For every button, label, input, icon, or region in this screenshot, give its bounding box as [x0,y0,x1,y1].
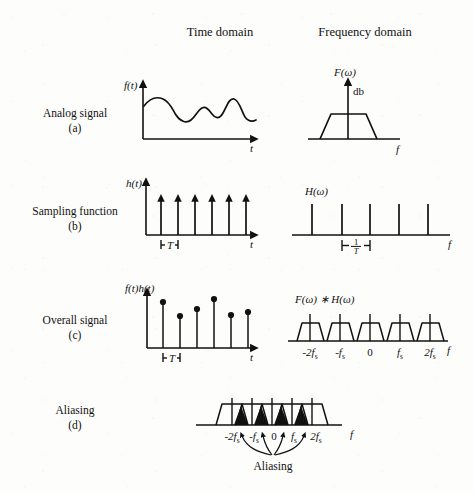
tick-label: fs [397,346,403,361]
panel-a-time: f(t) t [124,79,256,154]
axis-label-db: db [353,85,365,97]
sample-dot [177,313,183,319]
panel-b-time: h(t) t T [126,177,254,251]
panel-c-freq: F(ω) ∗ H(ω) f -2fs -fs 0 fs 2fs [288,293,452,361]
tick-label-zero: 0 [271,430,277,442]
row-tag-a: (a) [69,122,82,135]
tick-label: -fs [335,346,345,361]
axis-label-fthT: f(t)h(t) [125,282,155,295]
axis-label-Homega: H(ω) [304,185,328,198]
sample-dot [228,312,234,318]
tick-label: 2fs [424,346,436,361]
row-sampling-function: Sampling function (b) h(t) t T [32,177,453,256]
panel-c-time: f(t)h(t) t T [125,282,254,364]
tick-label: -2fs [224,430,239,445]
panel-a-freq: F(ω) db f [308,66,401,155]
sample-stems [160,296,251,348]
axis-label-f: f [447,344,452,356]
axis-label-f: f [448,238,453,250]
axis-label-t: t [250,351,254,363]
row-label-a: Analog signal [43,107,107,120]
tick-sub: s [315,352,318,361]
tick-label: 2fs [310,430,322,445]
row-label-c: Overall signal [43,314,108,327]
axis-label-t: t [250,142,254,154]
spacing-bracket-inverse-T: 1 T [342,237,370,256]
column-header-time: Time domain [187,25,254,39]
tick-label-zero: 0 [367,346,373,358]
period-bracket-T: T [161,238,178,251]
row-tag-c: (c) [69,329,82,342]
spectral-replicas [297,314,444,341]
axis-label-f: f [396,143,401,155]
period-label-T: T [167,239,174,251]
tick-sub: s [319,436,322,445]
row-label-d: Aliasing [56,404,95,417]
row-overall-signal: Overall signal (c) f(t)h(t) t [43,282,452,364]
axis-label-f: f [350,428,355,440]
tick-sub: s [433,352,436,361]
analog-waveform [144,98,256,122]
freq-tick-labels-d: -2fs -fs 0 fs 2fs [224,430,321,445]
row-label-b: Sampling function [32,205,118,218]
sample-dot [211,296,217,302]
panel-d-freq: f -2fs -fs 0 [196,398,355,473]
tick-sub: s [294,436,297,445]
period-label-T: T [169,352,176,364]
row-tag-b: (b) [68,220,82,233]
tick-sub: s [400,352,403,361]
column-header-frequency: Frequency domain [318,25,412,39]
panel-b-freq: H(ω) f 1 T [292,185,453,256]
impulse-train-time [161,200,246,235]
axis-label-ft: f(t) [124,79,138,92]
impulse-train-freq [312,204,428,235]
aliasing-annotation-label: Aliasing [254,460,293,473]
tick-label: -2fs [302,346,317,361]
row-analog-signal: Analog signal (a) f(t) t F(ω) db f [43,66,401,155]
row-tag-d: (d) [68,419,82,432]
axis-label-ht: h(t) [126,177,142,190]
overlapping-replicas [216,398,328,425]
sampling-aliasing-figure: Time domain Frequency domain Analog sign… [0,0,474,492]
sample-dot [245,309,251,315]
sample-dot [194,306,200,312]
tick-label: fs [291,430,297,445]
axis-label-t: t [250,238,254,250]
tick-sub: s [256,436,259,445]
sample-dot [160,299,166,305]
row-aliasing: Aliasing (d) f [56,398,355,473]
period-bracket-T: T [163,351,180,364]
axis-label-Fomega: F(ω) [333,66,356,79]
axis-label-convolution: F(ω) ∗ H(ω) [294,293,355,306]
freq-tick-labels-c: -2fs -fs 0 fs 2fs [302,346,435,361]
tick-label: -fs [249,430,259,445]
tick-sub: s [342,352,345,361]
tick-sub: s [237,436,240,445]
